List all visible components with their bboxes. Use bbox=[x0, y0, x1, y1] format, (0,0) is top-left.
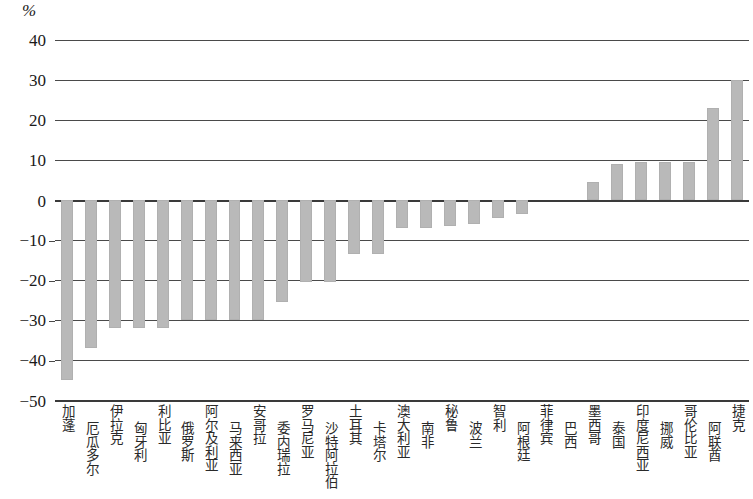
bar bbox=[205, 200, 217, 320]
x-axis-label: 利比亚 bbox=[156, 404, 170, 445]
bar bbox=[396, 200, 408, 228]
bar bbox=[61, 200, 73, 380]
y-axis-unit-label: % bbox=[22, 2, 36, 19]
bar bbox=[587, 182, 599, 200]
bar bbox=[348, 200, 360, 254]
bar bbox=[611, 164, 623, 200]
x-axis-label: 巴西 bbox=[563, 421, 577, 448]
y-tick-label: −30 bbox=[19, 312, 46, 329]
bar bbox=[109, 200, 121, 328]
y-tick-label: 10 bbox=[29, 152, 46, 169]
x-axis-label: 土耳其 bbox=[347, 404, 361, 445]
bars-group bbox=[55, 40, 749, 400]
bar bbox=[683, 162, 695, 200]
bar bbox=[468, 200, 480, 224]
x-axis-label: 挪威 bbox=[658, 421, 672, 448]
x-axis-label: 菲律宾 bbox=[539, 404, 553, 445]
x-axis-label: 阿尔及利亚 bbox=[204, 404, 218, 472]
bar bbox=[181, 200, 193, 320]
x-axis-label: 哥伦比亚 bbox=[682, 404, 696, 458]
bar bbox=[133, 200, 145, 328]
y-tick-label: 20 bbox=[29, 112, 46, 129]
bar bbox=[372, 200, 384, 254]
x-axis-label: 智利 bbox=[491, 404, 505, 431]
x-axis-label: 泰国 bbox=[610, 421, 624, 448]
x-axis-label: 澳大利亚 bbox=[395, 404, 409, 458]
x-axis-label: 加蓬 bbox=[60, 404, 74, 431]
gridline--50: −50 bbox=[55, 400, 749, 402]
x-axis-labels-group: 加蓬厄瓜多尔伊拉克匈牙利利比亚俄罗斯阿尔及利亚马来西亚安哥拉委内瑞拉罗马尼亚沙特… bbox=[55, 404, 749, 499]
bar bbox=[635, 162, 647, 200]
y-tick-label: 40 bbox=[29, 32, 46, 49]
bar bbox=[157, 200, 169, 328]
y-tick-label: −40 bbox=[19, 352, 46, 369]
bar bbox=[300, 200, 312, 282]
x-axis-label: 波兰 bbox=[467, 421, 481, 448]
bar bbox=[420, 200, 432, 228]
chart-page: % 403020100−10−20−30−40−50 加蓬厄瓜多尔伊拉克匈牙利利… bbox=[0, 0, 753, 499]
x-axis-label: 南非 bbox=[419, 421, 433, 448]
x-axis-label: 阿联酋 bbox=[706, 421, 720, 462]
y-tick-label: 0 bbox=[38, 193, 47, 210]
bar bbox=[516, 200, 528, 214]
plot-area: 403020100−10−20−30−40−50 bbox=[55, 40, 749, 400]
bar bbox=[252, 200, 264, 320]
x-axis-label: 墨西哥 bbox=[587, 404, 601, 445]
x-axis-label: 卡塔尔 bbox=[371, 421, 385, 462]
x-axis-label: 印度尼西亚 bbox=[634, 404, 648, 472]
bar bbox=[444, 200, 456, 226]
x-axis-label: 厄瓜多尔 bbox=[84, 421, 98, 475]
x-axis-label: 秘鲁 bbox=[443, 404, 457, 431]
x-axis-label: 匈牙利 bbox=[132, 421, 146, 462]
x-axis-label: 罗马尼亚 bbox=[299, 404, 313, 458]
bar bbox=[229, 200, 241, 320]
bar bbox=[731, 80, 743, 200]
x-axis-label: 沙特阿拉伯 bbox=[323, 421, 337, 489]
x-axis-label: 俄罗斯 bbox=[180, 421, 194, 462]
y-tick-label: −20 bbox=[19, 272, 46, 289]
bar bbox=[492, 200, 504, 218]
y-tick-label: 30 bbox=[29, 72, 46, 89]
x-axis-label: 伊拉克 bbox=[108, 404, 122, 445]
bar bbox=[85, 200, 97, 348]
bar bbox=[659, 162, 671, 200]
y-tick-label: −50 bbox=[19, 393, 46, 410]
y-tick-label: −10 bbox=[19, 232, 46, 249]
x-axis-label: 马来西亚 bbox=[228, 421, 242, 475]
bar bbox=[707, 108, 719, 200]
x-axis-label: 捷克 bbox=[730, 404, 744, 431]
x-axis-label: 安哥拉 bbox=[252, 404, 266, 445]
bar bbox=[324, 200, 336, 282]
x-axis-label: 委内瑞拉 bbox=[275, 421, 289, 475]
x-axis-label: 阿根廷 bbox=[515, 421, 529, 462]
bar bbox=[276, 200, 288, 302]
